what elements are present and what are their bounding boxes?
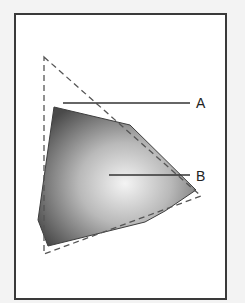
label-b: B: [196, 168, 205, 184]
gamut-diagram: A B: [0, 0, 245, 303]
filled-gamut-polygon: [38, 107, 196, 246]
label-a: A: [196, 95, 206, 111]
